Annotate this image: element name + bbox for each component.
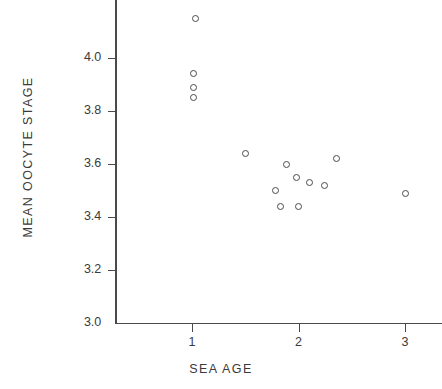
y-axis-line (115, 0, 116, 324)
data-point (242, 150, 249, 157)
y-axis-tick (108, 217, 116, 218)
data-point (293, 174, 300, 181)
y-axis-tick-label: 3.6 (59, 156, 101, 170)
x-axis-tick-label: 3 (390, 335, 420, 349)
data-point (190, 70, 197, 77)
data-point (306, 179, 313, 186)
y-axis-tick-label: 3.4 (59, 209, 101, 223)
x-axis-tick (299, 324, 300, 332)
y-axis-tick-label: 3.8 (59, 103, 101, 117)
y-axis-label: MEAN OOCYTE STAGE (21, 57, 35, 257)
data-point (283, 161, 290, 168)
y-axis-tick (108, 270, 116, 271)
y-axis-tick (108, 111, 116, 112)
y-axis-tick-label: 4.0 (59, 50, 101, 64)
y-axis-tick-label: 3.0 (59, 315, 101, 329)
y-axis-tick (108, 164, 116, 165)
scatter-plot-figure: MEAN OOCYTE STAGE SEA AGE 3.03.23.43.63.… (0, 0, 442, 389)
x-axis-label: SEA AGE (0, 362, 442, 376)
data-point (402, 190, 409, 197)
data-point (272, 187, 279, 194)
data-point (333, 155, 340, 162)
data-point (192, 15, 199, 22)
x-axis-tick-label: 1 (177, 335, 207, 349)
data-point (190, 84, 197, 91)
x-axis-tick (405, 324, 406, 332)
data-point (190, 94, 197, 101)
y-axis-tick (108, 58, 116, 59)
x-axis-tick-label: 2 (284, 335, 314, 349)
data-point (277, 203, 284, 210)
data-point (295, 203, 302, 210)
x-axis-line (115, 323, 442, 324)
y-axis-tick-label: 3.2 (59, 262, 101, 276)
data-point (321, 182, 328, 189)
x-axis-tick (192, 324, 193, 332)
